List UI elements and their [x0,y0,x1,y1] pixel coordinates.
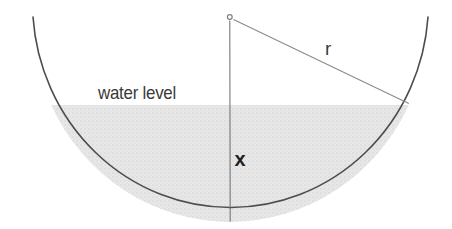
depth-label: x [235,148,246,170]
bowl-diagram: water level r x [0,0,452,229]
water-level-label: water level [97,82,176,103]
center-point-marker [227,15,232,20]
radius-label: r [325,38,332,59]
radius-line [234,20,409,104]
bowl-water-figure: water level r x [0,0,452,229]
